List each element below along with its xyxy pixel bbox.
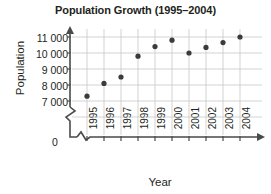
gridlines	[72, 29, 262, 135]
data-point	[118, 74, 123, 79]
data-point	[220, 40, 225, 45]
data-point	[84, 94, 89, 99]
data-point	[152, 44, 157, 49]
axis-lines	[66, 26, 265, 141]
data-point	[169, 38, 174, 43]
plot-area	[0, 0, 271, 194]
data-point	[203, 45, 208, 50]
data-point	[135, 54, 140, 59]
data-point	[101, 81, 106, 86]
scatter-chart: Population Growth (1995–2004) Population…	[0, 0, 271, 194]
data-point	[237, 34, 242, 39]
data-points	[84, 34, 242, 98]
data-point	[186, 50, 191, 55]
